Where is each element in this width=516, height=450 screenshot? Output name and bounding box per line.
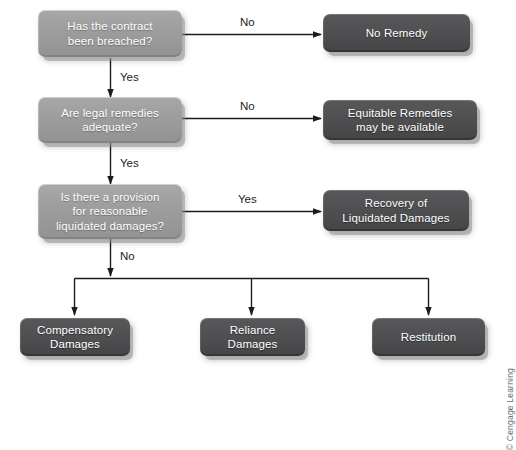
outcome-compensatory-damages-label: Compensatory Damages [31, 323, 119, 351]
outcome-reliance-damages-label: Reliance Damages [222, 323, 284, 351]
decision-legal-remedies-adequate-label: Are legal remedies adequate? [55, 106, 165, 134]
decision-liquidated-damages-provision-label: Is there a provision for reasonable liqu… [50, 190, 170, 232]
outcome-equitable-remedies[interactable]: Equitable Remedies may be available [323, 100, 477, 140]
outcome-recovery-liquidated-damages-label: Recovery of Liquidated Damages [336, 196, 455, 224]
edge-label-d3-yes: Yes [238, 193, 257, 205]
decision-liquidated-damages-provision[interactable]: Is there a provision for reasonable liqu… [38, 184, 182, 239]
outcome-no-remedy[interactable]: No Remedy [323, 14, 470, 52]
outcome-restitution[interactable]: Restitution [372, 318, 485, 356]
edge-label-d3-no: No [120, 250, 135, 262]
decision-contract-breached-label: Has the contract been breached? [61, 19, 158, 47]
outcome-reliance-damages[interactable]: Reliance Damages [200, 318, 305, 356]
edge-label-d2-yes: Yes [120, 157, 139, 169]
edge-label-d1-yes: Yes [120, 71, 139, 83]
edge-label-d2-no: No [240, 100, 255, 112]
decision-legal-remedies-adequate[interactable]: Are legal remedies adequate? [38, 97, 182, 143]
outcome-equitable-remedies-label: Equitable Remedies may be available [342, 106, 459, 134]
outcome-restitution-label: Restitution [395, 330, 462, 344]
copyright-credit: © Cengage Learning [505, 368, 515, 450]
outcome-compensatory-damages[interactable]: Compensatory Damages [20, 318, 130, 356]
outcome-no-remedy-label: No Remedy [360, 26, 434, 40]
edge-label-d1-no: No [240, 16, 255, 28]
outcome-recovery-liquidated-damages[interactable]: Recovery of Liquidated Damages [323, 190, 469, 231]
decision-contract-breached[interactable]: Has the contract been breached? [38, 10, 182, 57]
